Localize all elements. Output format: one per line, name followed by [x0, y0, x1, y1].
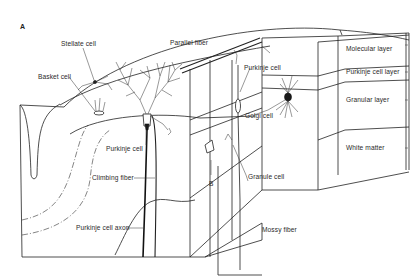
label-purkinje-cell-layer: Purkinje cell layer	[346, 69, 400, 76]
label-molecular-layer: Molecular layer	[346, 46, 392, 53]
label-white-matter: White matter	[346, 145, 385, 152]
label-stellate-cell: Stellate cell	[61, 41, 96, 48]
label-climbing-fiber: Climbing fiber	[92, 175, 134, 182]
panel-letter: A	[20, 23, 25, 30]
sulcus	[20, 104, 60, 179]
label-mossy-fiber: Mossy fiber	[262, 227, 297, 234]
label-basket-cell: Basket cell	[38, 74, 71, 81]
label-purkinje-cell-right: Purkinje cell	[244, 65, 281, 72]
label-purkinje-cell-axon: Purkinje cell axon	[76, 225, 129, 232]
basket-cell	[94, 98, 105, 115]
label-granular-layer: Granular layer	[346, 97, 389, 104]
label-parallel-fiber: Parallel fiber	[170, 40, 208, 47]
climbing-fiber-line	[152, 116, 156, 257]
label-purkinje-cell-left: Purkinje cell	[106, 146, 143, 153]
golgi-cell	[276, 76, 298, 118]
purkinje-cell-axon-line	[143, 130, 147, 257]
cerebellar-cortex-diagram: A Stellate cell Parallel fiber Basket ce…	[0, 0, 415, 280]
label-golgi-cell: Golgi cell	[245, 113, 273, 120]
label-marker-b: B	[209, 181, 214, 188]
label-granule-cell: Granule cell	[248, 174, 284, 181]
